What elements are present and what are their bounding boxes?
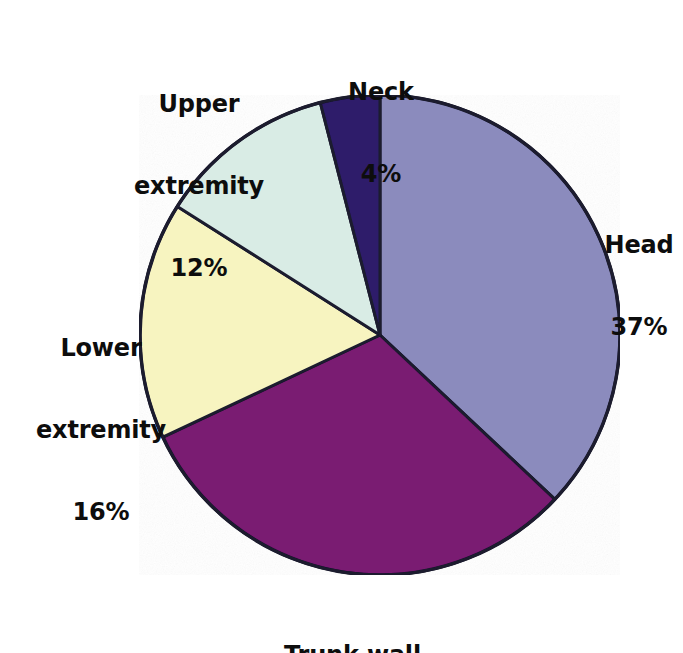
pie-label-lower-extremity-name-line1: Lower	[6, 335, 196, 362]
pie-label-lower-extremity-value: 16%	[6, 499, 196, 526]
pie-label-lower-extremity: Lower extremity 16%	[6, 280, 196, 581]
pie-label-neck: Neck 4%	[296, 24, 466, 243]
pie-label-head-value: 37%	[596, 314, 682, 341]
pie-label-neck-value: 4%	[296, 161, 466, 188]
pie-label-upper-extremity-value: 12%	[99, 255, 299, 282]
pie-label-lower-extremity-name-line2: extremity	[6, 417, 196, 444]
pie-label-head-name: Head	[596, 232, 682, 259]
pie-label-neck-name: Neck	[296, 79, 466, 106]
pie-label-upper-extremity-name-line2: extremity	[99, 173, 299, 200]
pie-chart-figure: Neck 4% Upper extremity 12% Lower extrem…	[0, 0, 683, 653]
pie-label-head: Head 37%	[596, 177, 682, 396]
pie-label-trunk-wall-name: Trunk wall	[245, 642, 460, 653]
pie-label-trunk-wall: Trunk wall 31%	[245, 587, 460, 653]
pie-label-upper-extremity-name-line1: Upper	[99, 91, 299, 118]
